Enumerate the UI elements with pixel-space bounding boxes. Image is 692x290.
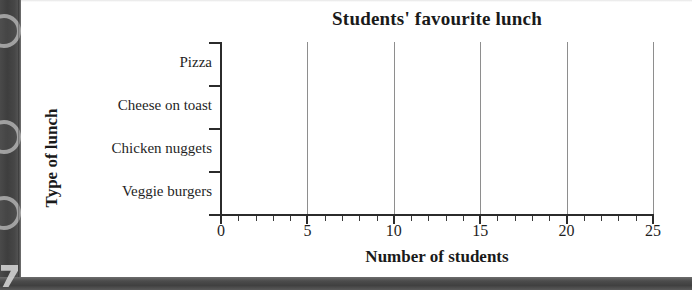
- x-axis-minor-tick: [463, 216, 464, 221]
- x-axis-minor-tick: [377, 216, 378, 221]
- x-axis-minor-tick: [256, 216, 257, 221]
- gridline: [394, 42, 395, 214]
- x-axis-minor-tick: [342, 216, 343, 221]
- x-axis-line: [220, 214, 654, 216]
- worksheet-page: Students' favourite lunch PizzaCheese on…: [0, 0, 692, 290]
- x-axis-minor-tick: [532, 216, 533, 221]
- x-axis-minor-tick: [290, 216, 291, 221]
- x-axis-minor-tick: [584, 216, 585, 221]
- x-axis-tick-label: 15: [460, 222, 500, 240]
- scan-edge-bottom: [0, 277, 692, 290]
- x-axis-minor-tick: [636, 216, 637, 221]
- gridline: [567, 42, 568, 214]
- x-axis-minor-tick: [428, 216, 429, 221]
- x-axis-tick-label: 5: [287, 222, 327, 240]
- x-axis-minor-tick: [515, 216, 516, 221]
- x-axis-minor-tick: [325, 216, 326, 221]
- x-axis-minor-tick: [411, 216, 412, 221]
- x-axis-tick-label: 0: [201, 222, 241, 240]
- y-axis-category-label: Pizza: [12, 54, 212, 71]
- x-axis-tick-label: 10: [374, 222, 414, 240]
- x-axis-minor-tick: [273, 216, 274, 221]
- gridline: [307, 42, 308, 214]
- x-axis-minor-tick: [359, 216, 360, 221]
- x-axis-minor-tick: [446, 216, 447, 221]
- x-axis-minor-tick: [238, 216, 239, 221]
- x-axis-tick-label: 20: [547, 222, 587, 240]
- y-axis-category-labels: PizzaCheese on toastChicken nuggetsVeggi…: [6, 0, 212, 290]
- x-axis-title: Number of students: [221, 247, 653, 267]
- x-axis-minor-tick: [601, 216, 602, 221]
- plot-area: [221, 42, 653, 214]
- x-axis-minor-tick: [549, 216, 550, 221]
- x-axis-tick-label: 25: [633, 222, 673, 240]
- gridline: [653, 42, 654, 214]
- chart-title: Students' favourite lunch: [221, 8, 653, 30]
- gridline: [480, 42, 481, 214]
- x-axis-minor-tick: [497, 216, 498, 221]
- y-axis-title: Type of lunch: [42, 88, 62, 228]
- x-axis-minor-tick: [618, 216, 619, 221]
